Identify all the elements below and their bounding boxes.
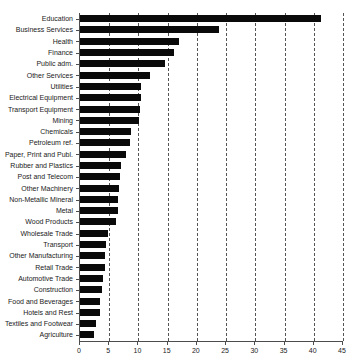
category-tick	[76, 279, 79, 280]
bar-chart: EducationBusiness ServicesHealthFinanceP…	[0, 0, 353, 361]
bar	[80, 49, 174, 56]
category-label: Non-Metallic Mineral	[0, 194, 76, 205]
bar-row	[80, 295, 342, 306]
x-axis-line	[79, 341, 342, 342]
category-tick	[76, 256, 79, 257]
category-label: Food and Beverages	[0, 295, 76, 306]
bar-row	[80, 36, 342, 47]
bar-row	[80, 115, 342, 126]
category-tick	[76, 19, 79, 20]
bar-row	[80, 149, 342, 160]
bar-row	[80, 307, 342, 318]
category-label: Textiles and Footwear	[0, 318, 76, 329]
category-tick	[76, 120, 79, 121]
x-tick-10	[137, 341, 138, 345]
gridline-45	[343, 13, 344, 341]
bar	[80, 207, 118, 214]
x-tick-0	[79, 341, 80, 345]
bar-row	[80, 81, 342, 92]
category-label: Transport	[0, 239, 76, 250]
bar	[80, 298, 100, 305]
x-tick-label: 20	[192, 347, 200, 354]
bar	[80, 218, 116, 225]
bar	[80, 139, 130, 146]
bar-row	[80, 137, 342, 148]
category-label: Public adm.	[0, 58, 76, 69]
category-tick	[76, 87, 79, 88]
bar	[80, 106, 140, 113]
category-label: Wholesale Trade	[0, 228, 76, 239]
category-tick	[76, 335, 79, 336]
x-tick-40	[313, 341, 314, 345]
bar-row	[80, 13, 342, 24]
bar	[80, 38, 179, 45]
bar-row	[80, 284, 342, 295]
bar	[80, 230, 108, 237]
category-label: Agriculture	[0, 329, 76, 340]
bar	[80, 196, 118, 203]
bar-row	[80, 103, 342, 114]
category-label: Finance	[0, 47, 76, 58]
bar	[80, 72, 150, 79]
x-tick-label: 0	[77, 347, 81, 354]
bar-row	[80, 250, 342, 261]
x-tick-label: 25	[221, 347, 229, 354]
category-tick	[76, 267, 79, 268]
bar-row	[80, 160, 342, 171]
x-tick-label: 30	[250, 347, 258, 354]
category-label: Petroleum ref.	[0, 137, 76, 148]
x-tick-label: 40	[309, 347, 317, 354]
category-label: Utilities	[0, 81, 76, 92]
category-tick	[76, 154, 79, 155]
category-tick	[76, 98, 79, 99]
bar-row	[80, 228, 342, 239]
bar	[80, 309, 100, 316]
category-tick	[76, 324, 79, 325]
bar-row	[80, 47, 342, 58]
category-label: Metal	[0, 205, 76, 216]
bar	[80, 264, 105, 271]
category-label: Hotels and Rest	[0, 307, 76, 318]
x-tick-label: 10	[134, 347, 142, 354]
category-tick	[76, 132, 79, 133]
category-tick	[76, 234, 79, 235]
bar-row	[80, 239, 342, 250]
category-label: Education	[0, 13, 76, 24]
bar	[80, 241, 106, 248]
bar	[80, 286, 102, 293]
bar-series	[80, 13, 342, 341]
bar	[80, 162, 121, 169]
bar-row	[80, 262, 342, 273]
x-tick-25	[225, 341, 226, 345]
category-label: Health	[0, 36, 76, 47]
bar	[80, 173, 120, 180]
x-tick-label: 45	[338, 347, 346, 354]
category-axis-labels: EducationBusiness ServicesHealthFinanceP…	[0, 13, 76, 341]
bar-row	[80, 329, 342, 340]
bar	[80, 128, 131, 135]
category-label: Other Machinery	[0, 182, 76, 193]
category-label: Business Services	[0, 24, 76, 35]
x-tick-20	[196, 341, 197, 345]
category-tick	[76, 188, 79, 189]
x-tick-45	[342, 341, 343, 345]
category-tick	[76, 75, 79, 76]
category-tick	[76, 166, 79, 167]
category-label: Rubber and Plastics	[0, 160, 76, 171]
category-tick	[76, 53, 79, 54]
bar-row	[80, 216, 342, 227]
category-label: Paper, Print and Publ.	[0, 149, 76, 160]
x-tick-label: 15	[163, 347, 171, 354]
category-label: Mining	[0, 115, 76, 126]
bar-row	[80, 69, 342, 80]
category-tick	[76, 211, 79, 212]
bar-row	[80, 92, 342, 103]
bar	[80, 83, 141, 90]
bar-row	[80, 182, 342, 193]
bar-row	[80, 318, 342, 329]
category-tick	[76, 200, 79, 201]
category-label: Construction	[0, 284, 76, 295]
bar	[80, 252, 105, 259]
category-label: Post and Telecom	[0, 171, 76, 182]
category-tick	[76, 64, 79, 65]
